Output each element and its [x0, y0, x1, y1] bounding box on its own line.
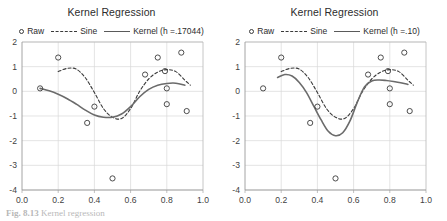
raw-data-point [378, 55, 383, 60]
y-axis-tick-label: -2 [232, 136, 240, 146]
figure-caption: Fig. 8.13 Kernel regression [6, 208, 447, 218]
raw-data-point [85, 120, 90, 125]
y-axis-tick-label: -3 [9, 160, 17, 170]
x-axis-tick-label: 0.4 [88, 195, 100, 205]
figure-caption-number: Fig. 8.13 [6, 208, 39, 218]
series-line-kernel [278, 74, 408, 135]
raw-data-point [142, 72, 147, 77]
x-axis-tick-label: 1.0 [197, 195, 209, 205]
raw-data-point [110, 176, 115, 181]
y-axis-tick-label: 0 [12, 86, 17, 96]
y-axis-tick-label: 0 [235, 86, 240, 96]
y-axis-tick-label: -3 [232, 160, 240, 170]
y-axis-tick-label: -1 [232, 111, 240, 121]
raw-data-point [261, 86, 266, 91]
x-axis-tick-label: 0.8 [384, 195, 396, 205]
chart-panel-left: Kernel Regression Raw Sine Kernel (h =.1… [0, 0, 223, 205]
raw-data-point [308, 120, 313, 125]
raw-data-point [365, 72, 370, 77]
y-axis-tick-label: 2 [12, 37, 17, 47]
raw-data-point [184, 108, 189, 113]
raw-data-point [407, 108, 412, 113]
x-axis-tick-label: 1.0 [420, 195, 432, 205]
x-axis-tick-label: 0.0 [239, 195, 251, 205]
y-axis-tick-label: -1 [9, 111, 17, 121]
y-axis-tick-label: 1 [12, 62, 17, 72]
series-line-kernel [40, 83, 185, 118]
raw-data-point [402, 50, 407, 55]
plot-area-right: 210-1-2-3-40.00.20.40.60.81.0 [223, 0, 446, 205]
chart-panel-right: Kernel Regression Raw Sine Kernel (h =.1… [223, 0, 446, 205]
x-axis-tick-label: 0.4 [311, 195, 323, 205]
raw-data-point [179, 50, 184, 55]
figure-container: Kernel Regression Raw Sine Kernel (h =.1… [0, 0, 447, 221]
y-axis-tick-label: 2 [235, 37, 240, 47]
y-axis-tick-label: -4 [9, 185, 17, 195]
x-axis-tick-label: 0.6 [348, 195, 360, 205]
figure-caption-text: Kernel regression [41, 208, 105, 218]
raw-data-point [155, 55, 160, 60]
x-axis-tick-label: 0.0 [16, 195, 28, 205]
x-axis-tick-label: 0.6 [125, 195, 137, 205]
y-axis-tick-label: 1 [235, 62, 240, 72]
x-axis-tick-label: 0.2 [275, 195, 287, 205]
plot-area-left: 210-1-2-3-40.00.20.40.60.81.0 [0, 0, 223, 205]
x-axis-tick-label: 0.2 [52, 195, 64, 205]
y-axis-tick-label: -2 [9, 136, 17, 146]
raw-data-point [333, 176, 338, 181]
x-axis-tick-label: 0.8 [161, 195, 173, 205]
y-axis-tick-label: -4 [232, 185, 240, 195]
series-line-sine [281, 68, 413, 119]
